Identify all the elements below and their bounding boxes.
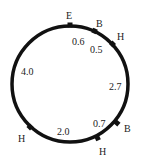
- segment-length-h-h: 2.0: [57, 126, 70, 137]
- point-label-b1: B: [96, 18, 103, 29]
- segment-length-e-b: 0.6: [72, 36, 85, 47]
- segment-length-b-h: 0.5: [90, 44, 103, 55]
- segment-length-b-h2: 0.7: [93, 118, 106, 129]
- point-marker-e: [68, 23, 73, 28]
- point-label-h2: H: [99, 146, 106, 157]
- segment-length-h-e: 4.0: [21, 66, 34, 77]
- point-label-h1: H: [117, 31, 124, 42]
- segment-length-h-b: 2.7: [109, 81, 122, 92]
- point-label-e: E: [66, 10, 72, 21]
- point-label-b2: B: [124, 123, 131, 134]
- point-label-h3: H: [18, 133, 25, 144]
- circular-route-diagram: E B H B H H 0.6 0.5 2.7 0.7 2.0 4.0: [0, 0, 141, 160]
